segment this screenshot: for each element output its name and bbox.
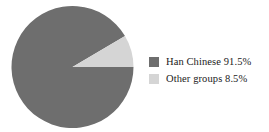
pie-chart-area <box>0 0 148 132</box>
legend-swatch-other-groups <box>149 74 159 84</box>
pie-chart-figure: Han Chinese 91.5% Other groups 8.5% <box>0 0 269 132</box>
chart-legend: Han Chinese 91.5% Other groups 8.5% <box>149 53 269 87</box>
legend-label-han-chinese: Han Chinese 91.5% <box>166 56 251 67</box>
legend-item-other-groups[interactable]: Other groups 8.5% <box>149 70 269 87</box>
legend-item-han-chinese[interactable]: Han Chinese 91.5% <box>149 53 269 70</box>
legend-swatch-han-chinese <box>149 57 159 67</box>
pie-chart-svg <box>0 0 148 132</box>
legend-label-other-groups: Other groups 8.5% <box>166 73 247 84</box>
